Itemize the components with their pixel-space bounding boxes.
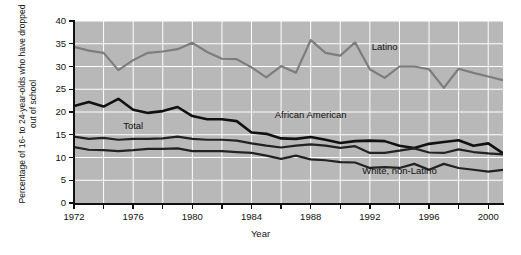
y-axis-title: Percentage of 16- to 24-year-olds who ha… xyxy=(17,4,39,204)
x-axis-line xyxy=(73,203,504,205)
x-tick xyxy=(251,205,252,209)
y-tick xyxy=(69,66,73,67)
series-line-white-non-latino xyxy=(74,147,503,172)
y-tick xyxy=(69,20,73,21)
x-tick xyxy=(221,205,222,209)
x-tick xyxy=(192,205,193,209)
x-tick xyxy=(488,205,489,209)
y-tick-label: 0 xyxy=(44,197,66,208)
y-tick xyxy=(69,157,73,158)
x-tick xyxy=(132,205,133,209)
y-tick-label: 40 xyxy=(44,15,66,26)
series-label-latino: Latino xyxy=(372,41,398,52)
y-tick xyxy=(69,180,73,181)
y-tick xyxy=(69,202,73,203)
y-tick-label: 15 xyxy=(44,129,66,140)
x-tick xyxy=(103,205,104,209)
x-tick xyxy=(73,205,74,209)
x-tick xyxy=(458,205,459,209)
x-tick xyxy=(162,205,163,209)
x-tick-label: 1988 xyxy=(291,211,331,222)
x-tick-label: 1976 xyxy=(113,211,153,222)
y-tick xyxy=(69,43,73,44)
series-label-white-non-latino: White, non-Latino xyxy=(362,165,436,176)
series-label-african-american: African American xyxy=(275,109,347,120)
series-line-latino xyxy=(74,40,503,88)
y-tick xyxy=(69,89,73,90)
y-tick-label: 10 xyxy=(44,152,66,163)
x-tick xyxy=(280,205,281,209)
series-label-total: Total xyxy=(123,120,143,131)
y-tick-label: 25 xyxy=(44,83,66,94)
y-axis-line xyxy=(73,20,75,204)
x-tick-label: 1996 xyxy=(409,211,449,222)
x-tick xyxy=(369,205,370,209)
x-tick xyxy=(428,205,429,209)
x-tick xyxy=(340,205,341,209)
x-axis-title: Year xyxy=(0,228,521,239)
y-tick xyxy=(69,111,73,112)
x-tick-label: 2000 xyxy=(468,211,508,222)
x-tick xyxy=(310,205,311,209)
chart-figure: Percentage of 16- to 24-year-olds who ha… xyxy=(0,0,521,255)
x-tick-label: 1992 xyxy=(350,211,390,222)
x-tick-label: 1984 xyxy=(232,211,272,222)
x-tick-label: 1980 xyxy=(172,211,212,222)
y-tick xyxy=(69,134,73,135)
x-tick xyxy=(399,205,400,209)
x-tick-label: 1972 xyxy=(54,211,94,222)
y-tick-label: 5 xyxy=(44,174,66,185)
y-tick-label: 30 xyxy=(44,61,66,72)
y-tick-label: 20 xyxy=(44,106,66,117)
y-tick-label: 35 xyxy=(44,38,66,49)
